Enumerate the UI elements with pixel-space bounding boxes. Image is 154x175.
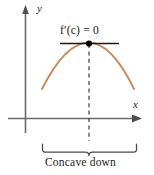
- critical-point-dot: [86, 40, 92, 46]
- derivative-zero-label: f′(c) = 0: [60, 25, 99, 37]
- x-axis-arrowhead: [132, 115, 142, 123]
- concave-down-brace: [43, 144, 137, 156]
- y-axis-arrowhead: [22, 5, 29, 14]
- concave-down-curve: [42, 43, 134, 90]
- y-axis-label: y: [37, 3, 42, 14]
- x-axis-label: x: [133, 99, 138, 110]
- concavity-figure: y x f′(c) = 0 Concave down: [0, 0, 154, 175]
- concave-down-caption: Concave down: [45, 157, 116, 169]
